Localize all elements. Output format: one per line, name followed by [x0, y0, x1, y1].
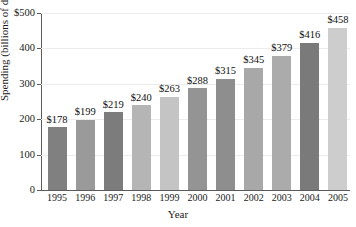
- x-tick-label: 2004: [300, 193, 320, 203]
- bar: $379: [272, 56, 291, 190]
- x-tick-label: 2001: [216, 193, 236, 203]
- bar: $199: [76, 120, 95, 190]
- bar-group: $3152001: [216, 13, 235, 190]
- bar: $263: [160, 97, 179, 190]
- bar-value-label: $315: [215, 66, 236, 77]
- y-tick-mark: [37, 119, 41, 120]
- y-axis-line: [41, 13, 42, 190]
- x-tick-label: 1999: [159, 193, 179, 203]
- x-tick-label: 2003: [272, 193, 292, 203]
- bar-group: $1991996: [76, 13, 95, 190]
- bar-value-label: $263: [159, 84, 180, 95]
- y-tick-label: 300: [19, 79, 35, 90]
- y-tick-mark: [37, 13, 41, 14]
- y-tick-label: 200: [19, 114, 35, 125]
- bar-group: $2882000: [188, 13, 207, 190]
- x-axis-line: [41, 190, 350, 191]
- bar-value-label: $458: [327, 15, 348, 26]
- x-axis-title: Year: [0, 209, 356, 220]
- bar: $458: [328, 28, 347, 190]
- y-tick-label: 0: [30, 185, 35, 196]
- plot-area: 0100200300400$500 $1781995$1991996$21919…: [41, 13, 350, 190]
- bar-value-label: $240: [131, 93, 152, 104]
- bar-value-label: $178: [47, 115, 68, 126]
- bar-value-label: $379: [271, 43, 292, 54]
- bar-value-label: $219: [103, 100, 124, 111]
- bar-group: $4162004: [300, 13, 319, 190]
- bar-value-label: $199: [75, 107, 96, 118]
- y-axis-title: Spending (billions of dollars): [0, 0, 10, 101]
- x-tick-label: 1995: [47, 193, 67, 203]
- y-tick-label: 400: [19, 43, 35, 54]
- bar-group: $3452002: [244, 13, 263, 190]
- bar: $416: [300, 43, 319, 190]
- bar-group: $1781995: [48, 13, 67, 190]
- bar-group: $4582005: [328, 13, 347, 190]
- bar-value-label: $416: [299, 30, 320, 41]
- x-tick-label: 2002: [244, 193, 264, 203]
- bar-chart: Spending (billions of dollars) 010020030…: [0, 0, 356, 227]
- y-tick-label: $500: [14, 8, 35, 19]
- bar: $178: [48, 127, 67, 190]
- bar-group: $3792003: [272, 13, 291, 190]
- y-tick-label: 100: [19, 149, 35, 160]
- bar: $288: [188, 88, 207, 190]
- x-tick-label: 1998: [131, 193, 151, 203]
- bar: $240: [132, 105, 151, 190]
- x-tick-label: 1996: [75, 193, 95, 203]
- x-tick-label: 2005: [328, 193, 348, 203]
- bar: $219: [104, 112, 123, 190]
- bar-group: $2191997: [104, 13, 123, 190]
- bar-group: $2631999: [160, 13, 179, 190]
- x-tick-label: 1997: [103, 193, 123, 203]
- y-tick-mark: [37, 48, 41, 49]
- bar-group: $2401998: [132, 13, 151, 190]
- y-tick-mark: [37, 155, 41, 156]
- bar: $315: [216, 79, 235, 191]
- bar: $345: [244, 68, 263, 190]
- bar-value-label: $345: [243, 55, 264, 66]
- y-tick-mark: [37, 84, 41, 85]
- x-tick-label: 2000: [188, 193, 208, 203]
- y-tick-mark: [37, 190, 41, 191]
- bar-value-label: $288: [187, 76, 208, 87]
